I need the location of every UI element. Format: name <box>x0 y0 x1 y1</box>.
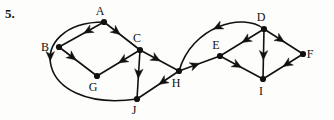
arrowhead-c-h <box>150 53 162 65</box>
node-label-a: A <box>96 4 105 18</box>
node-label-h: H <box>172 76 181 90</box>
arrowhead-d-f <box>274 33 287 45</box>
node-b <box>56 44 62 50</box>
node-label-f: F <box>307 47 314 61</box>
node-d <box>261 26 267 32</box>
node-label-e: E <box>212 38 219 52</box>
node-a <box>101 19 107 25</box>
arrowhead-h-e <box>189 59 201 70</box>
node-label-j: J <box>132 103 137 117</box>
node-f <box>300 51 306 57</box>
arrowhead-e-i <box>231 59 243 71</box>
node-label-d: D <box>257 10 266 24</box>
node-e <box>217 53 223 59</box>
node-c <box>137 47 143 53</box>
node-label-layer: ABCGJHEDIF <box>41 4 314 117</box>
arrowhead-a-b <box>82 25 94 37</box>
arrowhead-c-g <box>116 54 129 66</box>
arrowhead-d-e <box>240 34 253 46</box>
edge-b-g <box>59 47 97 76</box>
directed-graph: ABCGJHEDIF <box>0 0 334 120</box>
figure-canvas: 5. ABCGJHEDIF <box>0 0 334 120</box>
node-j <box>134 96 140 102</box>
node-label-i: I <box>259 84 263 98</box>
node-h <box>176 68 182 74</box>
node-i <box>260 76 266 82</box>
arrowhead-d-h <box>212 21 224 33</box>
node-label-g: G <box>89 80 98 94</box>
edge-a-b <box>59 22 104 47</box>
node-label-c: C <box>133 31 141 45</box>
node-g <box>94 73 100 79</box>
arrowhead-h-j <box>156 76 169 88</box>
arrowhead-f-i <box>281 58 294 70</box>
node-label-b: B <box>41 40 49 54</box>
